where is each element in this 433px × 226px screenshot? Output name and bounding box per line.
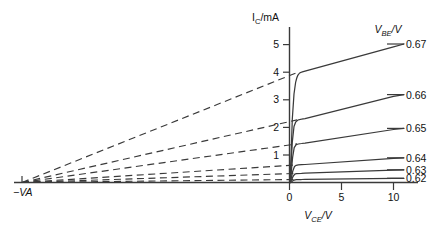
x-tick-label-0: 0 xyxy=(287,191,293,203)
early-voltage-sub: A xyxy=(25,186,33,198)
curve-vbe-063 xyxy=(290,170,404,183)
chart-figure: 1 2 3 4 5 0 5 10 IC/mA VCE/V −VA VBE/V 0… xyxy=(0,0,433,226)
curve-vbe-065 xyxy=(290,128,404,182)
x-axis-title: VCE/V xyxy=(304,209,332,224)
dashed-asymptote-067 xyxy=(22,73,297,183)
x-tick-label-5: 5 xyxy=(339,191,345,203)
series-label-062: 0.62 xyxy=(406,172,427,184)
legend-title: VBE/V xyxy=(374,23,402,38)
series-label-064: 0.64 xyxy=(406,152,427,164)
y-tick-label-3: 3 xyxy=(273,93,279,105)
legend-title-unit: /V xyxy=(391,23,403,35)
chart-svg: 1 2 3 4 5 0 5 10 IC/mA VCE/V −VA VBE/V 0… xyxy=(0,0,433,226)
y-tick-label-1: 1 xyxy=(273,149,279,161)
series-label-065: 0.65 xyxy=(406,122,427,134)
x-axis-title-unit: /V xyxy=(321,209,333,221)
early-voltage-label: −VA xyxy=(13,186,33,198)
x-tick-label-10: 10 xyxy=(388,191,400,203)
y-tick-label-2: 2 xyxy=(273,121,279,133)
series-label-066: 0.66 xyxy=(406,89,427,101)
dashed-asymptote-066 xyxy=(22,120,297,183)
y-tick-label-5: 5 xyxy=(273,38,279,50)
series-label-067: 0.67 xyxy=(406,38,427,50)
y-axis-title-unit: /mA xyxy=(260,11,279,23)
dashed-asymptote-063 xyxy=(22,173,297,182)
y-tick-label-4: 4 xyxy=(273,66,279,78)
dashed-asymptote-065 xyxy=(22,144,297,183)
curve-vbe-066 xyxy=(290,95,404,183)
y-axis-title: IC/mA xyxy=(252,11,279,26)
